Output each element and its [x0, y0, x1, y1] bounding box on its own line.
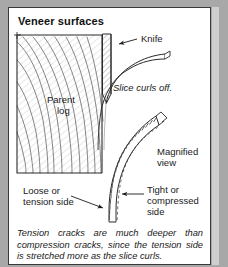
- magnified-view-label-line1: Magnified: [157, 146, 198, 157]
- knife-label: Knife: [141, 33, 163, 44]
- panel-right-shadow: [212, 7, 219, 265]
- magnified-view-label-line2: view: [157, 157, 176, 168]
- loose-side-label-line2: tension side: [23, 196, 74, 207]
- loose-side-label-line1: Loose or: [23, 185, 60, 196]
- tight-side-label-line1: Tight or: [147, 184, 179, 195]
- figure-caption: Tension cracks are much deeper than comp…: [17, 228, 203, 263]
- figure-root: Veneer surfaces: [0, 0, 228, 267]
- veneer-diagram-artwork: [9, 8, 210, 264]
- veneer-surfaces-figure-panel: Veneer surfaces: [8, 7, 211, 265]
- loose-side-leader-line: [71, 196, 103, 208]
- tight-side-label-line3: side: [147, 206, 164, 217]
- knife-leader-line: [119, 39, 137, 44]
- parent-log-label-line1: Parent: [47, 94, 75, 105]
- parent-log-label-line2: log: [57, 105, 70, 116]
- tight-side-label-line2: compressed: [147, 195, 199, 206]
- slice-curls-off-label: Slice curls off.: [113, 82, 172, 93]
